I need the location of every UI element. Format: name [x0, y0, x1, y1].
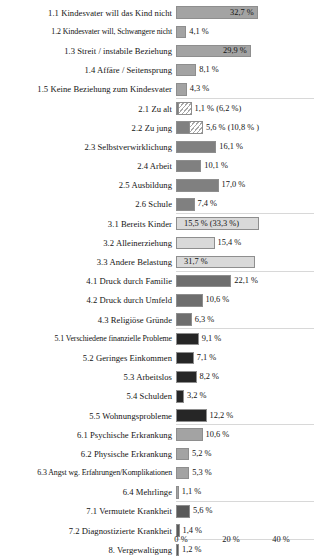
bar	[176, 179, 219, 192]
category-label: 5.5 Wohnungsprobleme	[0, 411, 176, 421]
bar-area: 1,1 % (6,2 %)	[176, 99, 320, 118]
bar: 32,7 %	[176, 6, 258, 19]
bar-segment-solid	[176, 294, 203, 307]
bar	[176, 448, 189, 461]
value-label: 7,1 %	[197, 353, 217, 363]
chart-row: 6.3 Angst wg. Erfahrungen/Komplikationen…	[0, 464, 320, 483]
value-label: 31,7 %	[184, 257, 208, 267]
chart-row: 6.4 Mehrlinge1,1 %	[0, 483, 320, 502]
bar-area: 10,6 %	[176, 291, 320, 310]
chart-row: 4.3 Religiöse Gründe6,3 %	[0, 310, 320, 329]
category-label: 1.1 Kindesvater will das Kind nicht	[0, 8, 176, 18]
bar-segment-solid	[176, 141, 216, 154]
chart-row: 1.4 Affäre / Seitensprung8,1 %	[0, 61, 320, 80]
bar-segment-solid	[176, 428, 203, 441]
bar-segment-solid	[176, 448, 189, 461]
category-label: 5.4 Schulden	[0, 391, 176, 401]
bar-area: 29,9 %	[176, 41, 320, 60]
bar	[176, 198, 195, 211]
x-axis: 0 %20 %40 %	[0, 534, 320, 548]
chart-row: 4.1 Druck durch Familie22,1 %	[0, 272, 320, 291]
bar-area: 12,2 %	[176, 406, 320, 425]
chart-row: 5.1 Verschiedene finanzielle Probleme9,1…	[0, 329, 320, 348]
value-label: 3,2 %	[187, 391, 207, 401]
value-label: 4,3 %	[190, 84, 210, 94]
bar-area: 32,7 %	[176, 3, 320, 22]
value-label: 17,0 %	[222, 180, 246, 190]
category-label: 2.4 Arbeit	[0, 161, 176, 171]
bar-area: 15,5 % (33,3 %)	[176, 214, 320, 233]
chart-row: 2.5 Ausbildung17,0 %	[0, 176, 320, 195]
bar: 15,5 % (33,3 %)	[176, 217, 259, 230]
value-label: 32,7 %	[230, 8, 254, 18]
bar-area: 6,3 %	[176, 310, 320, 329]
category-label: 1.2 Kindesvater will, Schwangere nicht	[0, 27, 176, 37]
bar-segment-solid	[176, 390, 184, 403]
axis-tick-label: 40 %	[272, 534, 289, 546]
bar-area: 5,2 %	[176, 444, 320, 463]
bar-segment-solid	[176, 160, 201, 173]
value-label: 8,2 %	[200, 372, 220, 382]
chart-rows: 1.1 Kindesvater will das Kind nicht32,7 …	[0, 3, 320, 556]
bar-segment-solid	[176, 198, 195, 211]
bar-area: 15,4 %	[176, 233, 320, 252]
value-label: 10,6 %	[206, 295, 230, 305]
value-label: 6,3 %	[195, 315, 215, 325]
bar: 29,9 %	[176, 45, 251, 58]
bar-segment-solid	[176, 26, 186, 39]
bar-segment-hatched	[179, 102, 192, 115]
value-label: 8,1 %	[199, 65, 219, 75]
value-label: 7,4 %	[198, 199, 218, 209]
category-label: 7.1 Vermutete Krankheit	[0, 506, 176, 516]
bar-segment-solid	[176, 275, 231, 288]
category-label: 3.2 Alleinerziehung	[0, 238, 176, 248]
bar-area: 10,6 %	[176, 425, 320, 444]
value-label: 10,1 %	[204, 161, 228, 171]
chart-row: 1.1 Kindesvater will das Kind nicht32,7 …	[0, 3, 320, 22]
bar	[176, 121, 203, 134]
value-label: 9,1 %	[202, 334, 222, 344]
category-label: 2.3 Selbstverwirklichung	[0, 142, 176, 152]
chart-row: 7.1 Vermutete Krankheit5,6 %	[0, 502, 320, 521]
bar	[176, 26, 186, 39]
chart-row: 3.2 Alleinerziehung15,4 %	[0, 233, 320, 252]
bar-area: 1,1 %	[176, 483, 320, 502]
chart-row: 3.1 Bereits Kinder15,5 % (33,3 %)	[0, 214, 320, 233]
bar-segment-solid	[176, 121, 190, 134]
category-label: 2.1 Zu alt	[0, 104, 176, 114]
bar-segment-solid	[176, 179, 219, 192]
bar-area: 5,6 %	[176, 502, 320, 521]
chart-row: 5.3 Arbeitslos8,2 %	[0, 368, 320, 387]
bar	[176, 467, 189, 480]
chart-row: 1.3 Streit / instabile Beziehung29,9 %	[0, 41, 320, 60]
bar-segment-solid	[176, 333, 199, 346]
bar-segment-solid	[176, 371, 197, 384]
bar-area: 7,1 %	[176, 348, 320, 367]
category-label: 3.3 Andere Belastung	[0, 257, 176, 267]
bar-segment-solid	[176, 409, 207, 422]
bar	[176, 275, 231, 288]
category-label: 1.3 Streit / instabile Beziehung	[0, 46, 176, 56]
chart-row: 4.2 Druck durch Umfeld10,6 %	[0, 291, 320, 310]
bar-area: 9,1 %	[176, 329, 320, 348]
bar	[176, 141, 216, 154]
category-label: 4.3 Religiöse Gründe	[0, 315, 176, 325]
bar-segment-solid	[176, 505, 190, 518]
value-label: 22,1 %	[234, 276, 258, 286]
value-label: 10,6 %	[206, 430, 230, 440]
chart-row: 2.2 Zu jung5,6 % (10,8 % )	[0, 118, 320, 137]
bar: 31,7 %	[176, 256, 255, 269]
chart-row: 1.2 Kindesvater will, Schwangere nicht4,…	[0, 22, 320, 41]
value-label: 12,2 %	[210, 411, 234, 421]
bar-area: 16,1 %	[176, 137, 320, 156]
bar	[176, 505, 190, 518]
bar	[176, 352, 194, 365]
chart-row: 5.5 Wohnungsprobleme12,2 %	[0, 406, 320, 425]
value-label: 15,4 %	[218, 238, 242, 248]
bar-area: 4,3 %	[176, 80, 320, 99]
bar	[176, 237, 215, 250]
category-label: 2.6 Schule	[0, 199, 176, 209]
bar	[176, 428, 203, 441]
bar-area: 17,0 %	[176, 176, 320, 195]
category-label: 6.2 Physische Erkrankung	[0, 449, 176, 459]
